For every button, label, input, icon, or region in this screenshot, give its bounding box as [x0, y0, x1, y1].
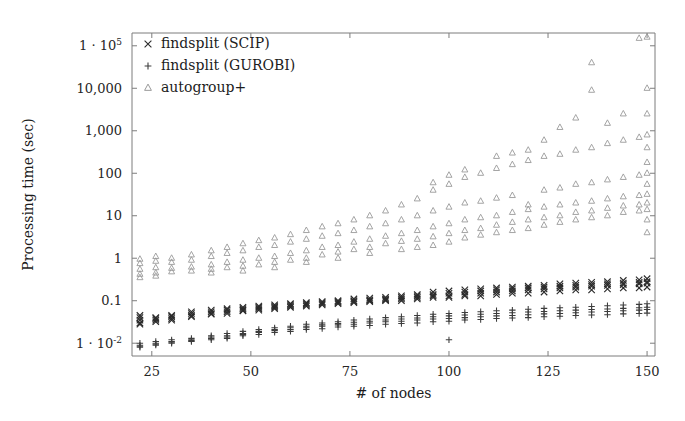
x-axis-label: # of nodes — [355, 385, 431, 401]
data-point — [478, 232, 484, 238]
data-point — [644, 191, 650, 197]
data-point — [335, 255, 341, 261]
data-point — [462, 227, 468, 233]
series-cross — [137, 275, 651, 327]
data-point — [256, 255, 262, 261]
data-point — [383, 207, 389, 213]
data-point — [525, 225, 531, 231]
data-point — [414, 212, 420, 218]
data-point — [573, 181, 579, 187]
data-point — [430, 233, 436, 239]
data-point — [541, 204, 547, 210]
scatter-chart-figure: 1 · 10-20.11101001,00010,0001 · 10525507… — [0, 0, 685, 421]
data-point — [287, 231, 293, 237]
data-point — [644, 301, 650, 307]
data-point — [494, 165, 500, 171]
data-point — [319, 223, 325, 229]
plot-svg: 1 · 10-20.11101001,00010,0001 · 10525507… — [0, 0, 685, 421]
data-point — [573, 209, 579, 215]
data-point — [644, 170, 650, 176]
data-point — [525, 290, 531, 296]
data-point — [208, 247, 214, 253]
data-point — [446, 230, 452, 236]
data-point — [589, 144, 595, 150]
data-point — [414, 195, 420, 201]
data-point — [541, 305, 547, 311]
x-tick-label: 25 — [144, 364, 161, 379]
data-point — [636, 35, 642, 41]
data-point — [573, 200, 579, 206]
data-point — [367, 212, 373, 218]
data-point — [272, 264, 278, 270]
data-point — [509, 219, 515, 225]
data-point — [287, 250, 293, 256]
data-point — [383, 233, 389, 239]
data-point — [462, 235, 468, 241]
data-point — [509, 192, 515, 198]
data-point — [367, 223, 373, 229]
data-point — [398, 216, 404, 222]
data-point — [256, 261, 262, 267]
data-point — [478, 214, 484, 220]
data-point — [557, 305, 563, 311]
data-point — [604, 176, 610, 182]
data-point — [462, 216, 468, 222]
data-point — [272, 235, 278, 241]
data-point — [430, 187, 436, 193]
data-point — [604, 120, 610, 126]
data-point — [367, 236, 373, 242]
data-point — [541, 137, 547, 143]
data-point — [636, 172, 642, 178]
data-point — [188, 257, 194, 263]
data-point — [287, 257, 293, 263]
y-tick-label: 10,000 — [77, 81, 123, 96]
data-point — [446, 181, 452, 187]
data-point — [446, 239, 452, 245]
data-point — [224, 250, 230, 256]
data-point — [494, 229, 500, 235]
legend: findsplit (SCIP)findsplit (GUROBI)autogr… — [145, 35, 296, 95]
data-point — [335, 230, 341, 236]
data-point — [644, 144, 650, 150]
data-point — [446, 220, 452, 226]
data-point — [137, 321, 143, 327]
data-point — [303, 227, 309, 233]
data-point — [319, 244, 325, 250]
data-point — [644, 206, 650, 212]
data-point — [509, 161, 515, 167]
data-point — [573, 147, 579, 153]
legend-label: findsplit (SCIP) — [161, 35, 270, 51]
data-point — [557, 124, 563, 130]
x-tick-label: 125 — [536, 364, 561, 379]
data-point — [604, 205, 610, 211]
data-point — [240, 247, 246, 253]
y-tick-label: 1,000 — [85, 123, 122, 138]
data-point — [557, 151, 563, 157]
data-point — [644, 216, 650, 222]
data-point — [319, 251, 325, 257]
data-point — [509, 150, 515, 156]
data-point — [414, 244, 420, 250]
data-point — [620, 209, 626, 215]
data-point — [644, 85, 650, 91]
data-point — [557, 185, 563, 191]
x-tick-label: 75 — [342, 364, 359, 379]
data-point — [589, 198, 595, 204]
data-point — [446, 172, 452, 178]
data-point — [604, 303, 610, 309]
legend-marker-cross-icon — [145, 41, 152, 48]
data-point — [272, 242, 278, 248]
data-point — [430, 242, 436, 248]
legend-marker-triangle-icon — [145, 84, 152, 90]
data-point — [335, 249, 341, 255]
data-point — [620, 193, 626, 199]
y-tick-label: 0.1 — [101, 293, 122, 308]
legend-entry: autogroup+ — [145, 79, 247, 95]
data-point — [414, 227, 420, 233]
data-point — [509, 227, 515, 233]
data-point — [636, 207, 642, 213]
data-point — [494, 212, 500, 218]
data-point — [462, 174, 468, 180]
y-axis-label: Processing time (sec) — [20, 118, 36, 270]
data-point — [494, 195, 500, 201]
